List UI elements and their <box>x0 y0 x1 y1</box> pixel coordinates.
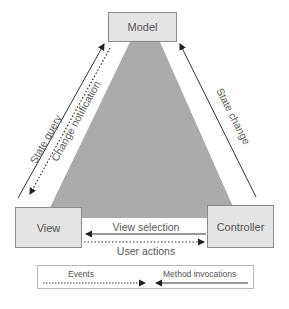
mvc-diagram: State query Change notification State ch… <box>0 0 289 309</box>
user-actions-label: User actions <box>117 245 175 257</box>
legend: Events Method invocations <box>37 265 254 289</box>
view-label: View <box>37 222 61 234</box>
view-node: View <box>15 207 82 248</box>
controller-label: Controller <box>217 221 265 233</box>
model-label: Model <box>128 21 158 33</box>
state-change-label: State change <box>214 86 253 147</box>
view-selection-label: View selection <box>113 221 180 233</box>
controller-node: Controller <box>207 205 274 248</box>
legend-method-invocations-label: Method invocations <box>163 269 236 279</box>
diagram-canvas: State query Change notification State ch… <box>0 0 289 309</box>
model-node: Model <box>108 12 177 42</box>
